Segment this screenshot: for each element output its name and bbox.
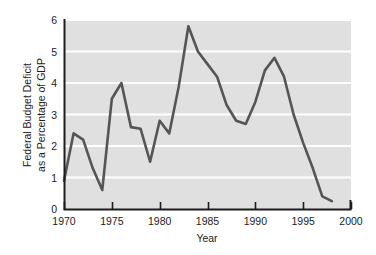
y-axis-title-line2: as a Percentage of GDP <box>35 58 47 172</box>
x-tick-label: 1975 <box>100 215 124 227</box>
line-chart: 0123456 1970197519801985199019952000 Yea… <box>0 0 376 255</box>
x-tick-label: 1970 <box>52 215 76 227</box>
x-tick-label: 1990 <box>244 215 268 227</box>
y-tick-label: 6 <box>51 14 57 26</box>
y-tick-label: 5 <box>51 46 57 58</box>
y-axis-title-line1: Federal Budget Deficit <box>21 63 33 167</box>
x-tick-label: 2000 <box>339 215 363 227</box>
x-axis-title: Year <box>196 232 218 244</box>
x-axis-tick-labels: 1970197519801985199019952000 <box>52 215 363 227</box>
x-tick-label: 1985 <box>196 215 220 227</box>
chart-figure: 0123456 1970197519801985199019952000 Yea… <box>0 0 376 255</box>
y-tick-label: 3 <box>51 109 57 121</box>
x-tick-label: 1995 <box>291 215 315 227</box>
y-tick-label: 0 <box>51 203 57 215</box>
y-tick-label: 4 <box>51 77 57 89</box>
y-axis-tick-labels: 0123456 <box>51 14 57 215</box>
x-tick-label: 1980 <box>148 215 172 227</box>
y-tick-label: 2 <box>51 140 57 152</box>
y-tick-label: 1 <box>51 172 57 184</box>
